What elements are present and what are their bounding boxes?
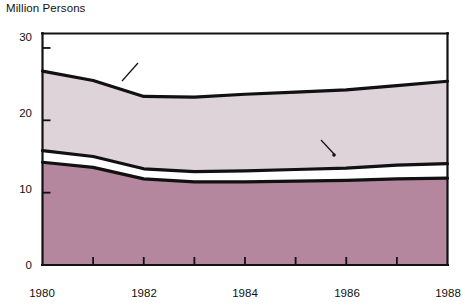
- leader-dot-reduced-price: [332, 153, 336, 157]
